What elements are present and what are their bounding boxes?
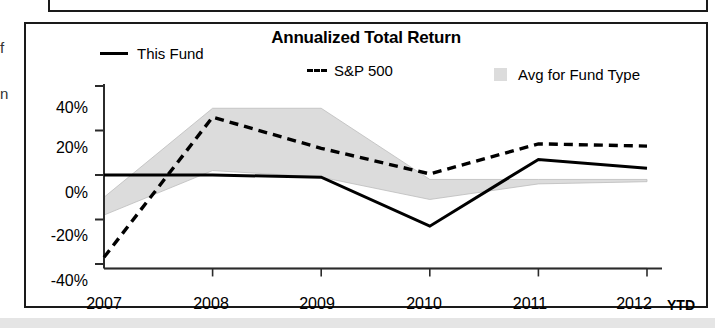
gutter-text-fragment-top: f (0, 40, 4, 55)
panel-above-edge (48, 0, 708, 12)
y-tick-label-40: 40% (32, 100, 88, 116)
y-axis-ticks (95, 86, 104, 264)
x-axis-ytd-label: YTD (667, 298, 695, 312)
annualized-total-return-panel: Annualized Total Return This Fund S&P 50… (24, 22, 708, 308)
y-tick-label-20: 20% (32, 140, 88, 156)
x-tick-label-2009: 2009 (287, 296, 347, 312)
y-tick-label-neg40: -40% (32, 273, 88, 289)
line-chart-svg (26, 24, 710, 310)
panel-below-sliver (0, 318, 715, 328)
x-tick-label-2012: 2012 (604, 296, 664, 312)
plot-area: 40% 20% 0% -20% -40% 2007 2008 2009 2010… (26, 24, 710, 310)
x-axis-ticks (213, 268, 647, 276)
x-tick-label-2008: 2008 (181, 296, 241, 312)
y-tick-label-0: 0% (32, 185, 88, 201)
x-tick-label-2011: 2011 (500, 296, 560, 312)
gutter-text-fragment-bottom: n (0, 86, 8, 101)
x-tick-label-2007: 2007 (74, 296, 134, 312)
x-tick-label-2010: 2010 (394, 296, 454, 312)
y-tick-label-neg20: -20% (32, 228, 88, 244)
